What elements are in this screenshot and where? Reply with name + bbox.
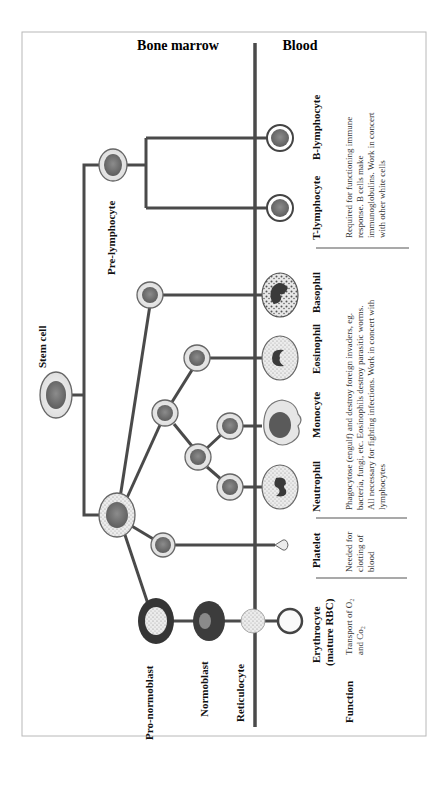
erythrocyte-label-line2: (mature RBC) bbox=[323, 598, 336, 666]
erythrocyte-function-line2: and Co₂ bbox=[355, 626, 365, 655]
platelet-function-line2: clotting of bbox=[355, 535, 365, 572]
lymphocyte-function-line2: response. B cells make bbox=[355, 156, 365, 238]
reticulocyte-cell bbox=[241, 609, 265, 633]
neutrophil-precursor-cell bbox=[217, 474, 243, 500]
b-lymphocyte-cell bbox=[267, 125, 293, 151]
lymphocyte-function-line4: with other white cells bbox=[377, 160, 387, 238]
myeloblast-cell bbox=[152, 400, 178, 426]
erythrocyte-label-line1: Erythrocyte bbox=[310, 606, 322, 663]
pro-normoblast-label: Pro-normoblast bbox=[143, 665, 155, 740]
b-lymphocyte-label: B-lymphocyte bbox=[310, 95, 322, 161]
megakaryocyte-precursor-cell bbox=[151, 533, 175, 557]
eosinophil-precursor-cell bbox=[184, 345, 210, 371]
monocyte-neutrophil-progenitor-cell bbox=[185, 444, 211, 470]
t-lymphocyte-cell bbox=[267, 195, 293, 221]
pre-lymphocyte-label: Pre-lymphocyte bbox=[105, 201, 117, 275]
normoblast-cell bbox=[193, 601, 225, 641]
monocyte-cell bbox=[264, 400, 301, 445]
bone-marrow-heading: Bone marrow bbox=[137, 38, 220, 53]
neutrophil-cell bbox=[262, 465, 298, 509]
platelet-label: Platelet bbox=[310, 532, 322, 568]
phagocyte-function-line2: bacteria, fungi, etc. Eosinophils destro… bbox=[355, 306, 365, 510]
basophil-cell bbox=[262, 273, 298, 317]
monocyte-precursor-cell bbox=[217, 413, 243, 439]
myeloid-progenitor-cell bbox=[99, 493, 135, 537]
normoblast-label: Normoblast bbox=[198, 661, 210, 717]
pro-normoblast-cell bbox=[138, 598, 174, 644]
eosinophil-cell bbox=[262, 336, 298, 380]
monocyte-label: Monocyte bbox=[310, 391, 322, 438]
basophil-precursor-cell bbox=[137, 282, 163, 308]
basophil-label: Basophil bbox=[310, 272, 322, 313]
t-lymphocyte-label: T-lymphocyte bbox=[310, 176, 322, 240]
stem-cell-label: Stem cell bbox=[36, 326, 48, 368]
lymphocyte-function-line3: immunoglobulins. Work in concert bbox=[366, 112, 376, 238]
eosinophil-label: Eosinophil bbox=[310, 324, 322, 374]
erythrocyte-function-line1: Transport of O₂ bbox=[344, 599, 354, 655]
pre-lymphocyte-cell bbox=[99, 149, 127, 181]
reticulocyte-label: Reticulocyte bbox=[234, 664, 246, 722]
hematopoiesis-diagram: Bone marrow Blood bbox=[0, 0, 439, 786]
blood-heading: Blood bbox=[282, 38, 317, 53]
phagocyte-function-line4: lymphocytes bbox=[377, 464, 387, 510]
erythrocyte-cell bbox=[278, 609, 302, 633]
phagocyte-function-line1: Phagocytose (engulf) and destroy foreign… bbox=[344, 313, 354, 510]
platelet-function-line1: Needed for bbox=[344, 532, 354, 572]
phagocyte-function-line3: All necessary for fighting infections. W… bbox=[366, 299, 376, 510]
function-label: Function bbox=[343, 681, 355, 723]
stem-cell bbox=[40, 372, 72, 418]
lymphocyte-function-line1: Required for functioning immune bbox=[344, 117, 354, 238]
platelet-function-line3: blood bbox=[366, 551, 376, 572]
neutrophil-label: Neutrophil bbox=[310, 461, 322, 512]
